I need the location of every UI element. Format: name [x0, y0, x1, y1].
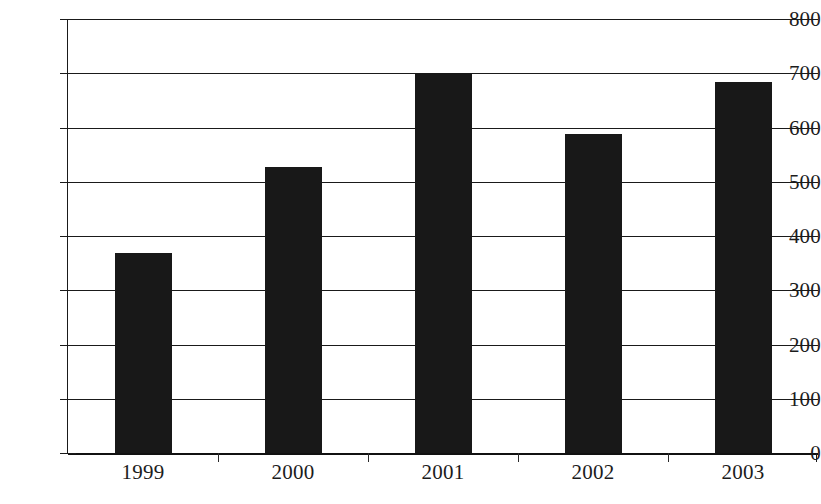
y-axis-tick — [60, 290, 76, 291]
x-axis-tick — [518, 453, 519, 462]
y-axis-tick — [60, 128, 76, 129]
bar-chart: 0100200300400500600700800 19992000200120… — [0, 0, 821, 504]
x-axis-tick — [218, 453, 219, 462]
y-axis-tick — [60, 236, 76, 237]
y-axis-tick-label: 800 — [767, 9, 821, 30]
x-axis-tick-label: 1999 — [98, 462, 188, 483]
y-axis-tick — [60, 182, 76, 183]
y-axis-tick — [60, 399, 76, 400]
y-axis-tick-label: 700 — [767, 63, 821, 84]
y-axis-tick-label: 600 — [767, 118, 821, 139]
x-axis-tick-label: 2000 — [248, 462, 338, 483]
y-axis-tick-label: 0 — [767, 443, 821, 464]
y-axis-tick-label: 100 — [767, 389, 821, 410]
bar — [715, 82, 772, 453]
x-axis-tick-label: 2003 — [698, 462, 788, 483]
y-axis-tick — [60, 73, 76, 74]
bar — [115, 253, 172, 453]
y-axis-tick — [60, 19, 76, 20]
y-axis-tick-label: 500 — [767, 172, 821, 193]
y-axis-tick-label: 300 — [767, 280, 821, 301]
y-axis-tick-label: 400 — [767, 226, 821, 247]
bar — [415, 73, 472, 453]
bar — [265, 167, 322, 453]
bar — [565, 134, 622, 453]
y-axis-tick — [60, 453, 76, 454]
x-axis-tick-label: 2001 — [398, 462, 488, 483]
y-axis-tick — [60, 345, 76, 346]
gridline — [68, 19, 818, 20]
x-axis-tick-label: 2002 — [548, 462, 638, 483]
x-axis-tick — [368, 453, 369, 462]
y-axis-tick-label: 200 — [767, 335, 821, 356]
x-axis-tick — [668, 453, 669, 462]
